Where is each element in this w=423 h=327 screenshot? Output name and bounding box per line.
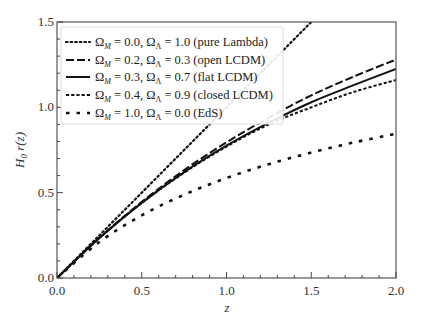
legend-label: ΩM = 0.3, ΩΛ = 0.7 (flat LCDM) [95,70,258,86]
y-tick-label: 0.0 [38,270,54,285]
legend-label: ΩM = 0.0, ΩΛ = 1.0 (pure Lambda) [95,35,268,51]
legend-label: ΩM = 0.4, ΩΛ = 0.9 (closed LCDM) [95,88,273,104]
legend-item-flat-lcdm: ΩM = 0.3, ΩΛ = 0.7 (flat LCDM) [66,70,258,86]
x-tick-label: 0.0 [49,283,65,298]
x-tick-label: 0.5 [134,283,150,298]
x-tick-label: 1.0 [218,283,234,298]
y-tick-label: 1.5 [38,14,54,29]
x-axis-label: z [223,300,229,315]
y-tick-label: 1.0 [38,99,54,114]
chart: 0.00.51.01.52.00.00.51.01.5 z H0 r(z) ΩM… [0,0,423,327]
series-line-eds [57,134,396,278]
legend-item-open-lcdm: ΩM = 0.2, ΩΛ = 0.3 (open LCDM) [66,53,265,69]
legend-item-closed-lcdm: ΩM = 0.4, ΩΛ = 0.9 (closed LCDM) [66,88,273,104]
x-tick-label: 2.0 [388,283,404,298]
legend-item-pure-lambda: ΩM = 0.0, ΩΛ = 1.0 (pure Lambda) [66,35,268,51]
x-tick-label: 1.5 [303,283,319,298]
legend-label: ΩM = 0.2, ΩΛ = 0.3 (open LCDM) [95,53,265,69]
svg-text:H0 r(z): H0 r(z) [12,132,29,169]
y-tick-label: 0.5 [38,185,54,200]
legend: ΩM = 0.0, ΩΛ = 1.0 (pure Lambda)ΩM = 0.2… [61,27,283,124]
y-axis-label: H0 r(z) [12,132,29,169]
